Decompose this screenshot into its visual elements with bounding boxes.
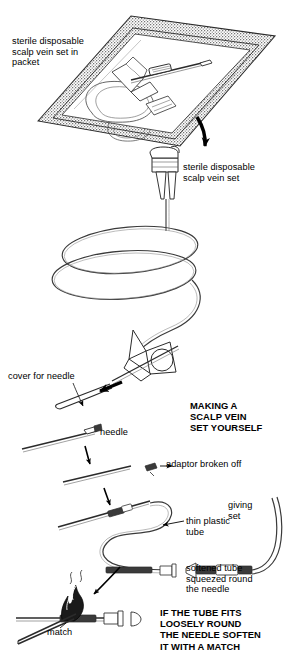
label-needle: needle [100,427,160,438]
scalp-vein-set-figure [51,146,201,409]
packet-to-set-arrow [197,117,205,146]
diagram-page: sterile disposable scalp vein set in pac… [0,0,290,663]
label-scalp-vein-set: sterile disposable scalp vein set [183,162,288,183]
label-giving-set: giving set [228,500,278,521]
caption-if-the-tube-fits-loosely: IF THE TUBE FITS LOOSELY ROUND THE NEEDL… [160,607,290,652]
label-softened-tube-squeezed-round-the-needle: softened tube squeezed round the needle [186,563,286,595]
label-cover-for-needle: cover for needle [8,371,108,382]
heading-making-a-scalp-vein-set-yourself: MAKING A SCALP VEIN SET YOURSELF [190,400,285,434]
label-adaptor-broken-off: adaptor broken off [166,459,286,470]
label-sterile-packet: sterile disposable scalp vein set in pac… [12,36,132,68]
label-match: match [47,627,97,638]
